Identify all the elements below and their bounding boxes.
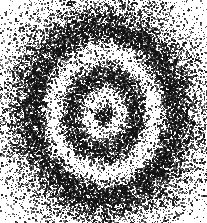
stipple-pattern-canvas: [0, 0, 207, 223]
stipple-figure: [0, 0, 207, 223]
